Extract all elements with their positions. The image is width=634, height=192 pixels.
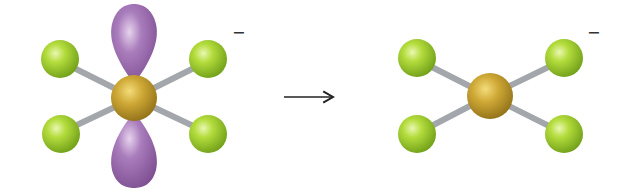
diagram-canvas [0,0,634,192]
central-atom [111,75,157,121]
reactant-charge: − [232,25,245,41]
reactant-molecule [41,4,227,188]
product-charge: − [587,25,600,41]
ligand-atom [41,40,79,78]
ligand-atom [189,115,227,153]
central-atom [467,73,513,119]
ligand-atom [189,40,227,78]
product-molecule [398,39,583,153]
ligand-atom [398,39,436,77]
lone-pair-lobe-top [111,4,157,84]
ligand-atom [42,115,80,153]
lone-pair-lobe-bottom [111,112,157,188]
ligand-atom [398,115,436,153]
ligand-atom [545,39,583,77]
ligand-atom [545,115,583,153]
